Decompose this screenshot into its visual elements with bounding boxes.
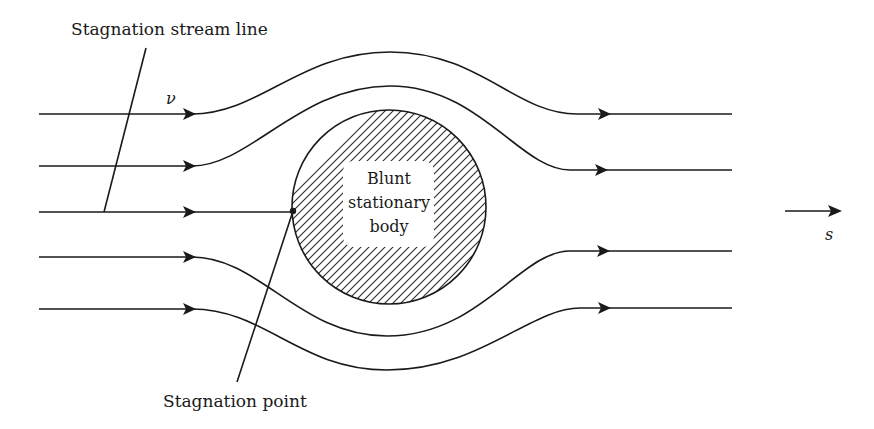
body-label-line2: stationary: [348, 193, 430, 212]
direction-symbol: s: [825, 225, 833, 244]
stagnation-streamline-leader: [104, 48, 146, 212]
streamline-2: [39, 86, 732, 170]
velocity-symbol: ν: [166, 89, 176, 108]
stagnation-point-label: Stagnation point: [163, 391, 307, 411]
streamline-4: [39, 251, 732, 336]
body-label-line1: Blunt: [367, 169, 411, 188]
stagnation-streamline-label: Stagnation stream line: [71, 19, 268, 39]
body-label-line3: body: [369, 217, 408, 236]
stagnation-point-leader: [237, 211, 293, 382]
blunt-body: [68, 80, 720, 420]
direction-arrow: [785, 205, 842, 217]
hatch-pattern: [68, 80, 720, 420]
streamline-5: [39, 308, 732, 370]
flow-diagram-svg: Stagnation stream line ν Blunt stationar…: [0, 0, 874, 429]
flow-diagram: Stagnation stream line ν Blunt stationar…: [0, 0, 874, 429]
